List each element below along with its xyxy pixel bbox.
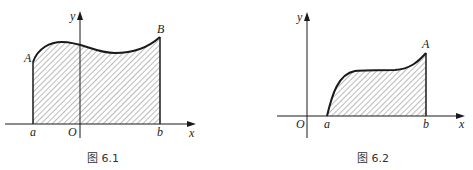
- a-label: a: [324, 117, 330, 131]
- origin-label: O: [68, 125, 77, 139]
- b-label: b: [157, 125, 163, 139]
- shaded-region: [327, 53, 426, 116]
- caption: 图 6.1: [87, 152, 119, 165]
- figure-6-2: y x O a b A 图 6.2: [277, 10, 465, 165]
- y-axis-arrow-icon: [304, 12, 310, 21]
- point-A-label: A: [421, 37, 430, 51]
- figure-6-1: y x O a b A B 图 6.1: [5, 9, 196, 165]
- y-label: y: [296, 10, 303, 24]
- caption: 图 6.2: [357, 152, 389, 165]
- y-label: y: [69, 9, 76, 23]
- diagram-canvas: y x O a b A B 图 6.1 y x O a b A 图 6.2: [0, 0, 473, 170]
- a-label: a: [30, 125, 36, 139]
- point-A-label: A: [23, 51, 32, 65]
- y-axis-arrow-icon: [77, 11, 83, 20]
- x-label: x: [188, 126, 195, 140]
- point-B-label: B: [157, 22, 165, 36]
- origin-label: O: [296, 117, 305, 131]
- x-label: x: [458, 117, 465, 131]
- b-label: b: [423, 117, 429, 131]
